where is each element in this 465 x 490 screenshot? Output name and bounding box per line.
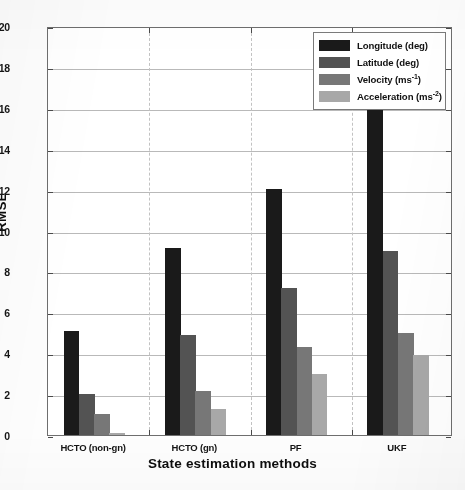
legend-item: Latitude (deg) [319, 54, 441, 71]
y-tick-mark-right [446, 151, 451, 152]
bar [281, 288, 297, 435]
y-tick-label: 12 [0, 185, 10, 197]
y-tick-mark [48, 273, 53, 274]
legend-label: Latitude (deg) [357, 57, 419, 68]
y-tick-mark-right [446, 314, 451, 315]
chart-figure: RMSE 02468101214161820 HCTO (non-gn)HCTO… [0, 0, 465, 490]
y-tick-mark [48, 314, 53, 315]
y-tick-label: 8 [0, 266, 10, 278]
y-tick-mark [48, 233, 53, 234]
legend-label: Velocity (ms-1) [357, 73, 421, 85]
gridline-horizontal [48, 151, 451, 152]
bar [64, 331, 80, 435]
chart-legend: Longitude (deg)Latitude (deg)Velocity (m… [313, 32, 446, 110]
y-tick-mark [48, 28, 53, 29]
gridline-horizontal [48, 192, 451, 193]
legend-label: Acceleration (ms-2) [357, 90, 442, 102]
y-tick-mark-right [446, 233, 451, 234]
y-tick-mark [48, 69, 53, 70]
y-tick-mark-right [446, 396, 451, 397]
x-tick-mark [149, 430, 150, 435]
x-category-label: HCTO (gn) [172, 442, 218, 453]
y-tick-mark [48, 110, 53, 111]
x-category-label: PF [290, 442, 302, 453]
bar [367, 108, 383, 435]
bar [413, 355, 429, 435]
y-tick-mark-right [446, 110, 451, 111]
y-tick-label: 18 [0, 62, 10, 74]
y-tick-mark-right [446, 437, 451, 438]
bar [312, 374, 328, 435]
y-tick-mark [48, 355, 53, 356]
y-tick-label: 6 [0, 307, 10, 319]
legend-label: Longitude (deg) [357, 40, 428, 51]
legend-swatch [319, 74, 350, 85]
y-tick-label: 4 [0, 348, 10, 360]
y-tick-mark [48, 151, 53, 152]
bar [297, 347, 313, 435]
legend-item: Velocity (ms-1) [319, 71, 441, 88]
legend-item: Longitude (deg) [319, 37, 441, 54]
bar [165, 248, 181, 435]
bar [79, 394, 95, 435]
legend-swatch [319, 57, 350, 68]
x-axis-title: State estimation methods [0, 456, 465, 471]
bar [383, 251, 399, 435]
x-category-label: UKF [387, 442, 406, 453]
y-tick-label: 20 [0, 21, 10, 33]
bar [195, 391, 211, 435]
y-tick-label: 16 [0, 103, 10, 115]
y-tick-mark [48, 437, 53, 438]
legend-swatch [319, 40, 350, 51]
y-tick-mark-right [446, 192, 451, 193]
bar [180, 335, 196, 435]
y-tick-label: 0 [0, 430, 10, 442]
gridline-vertical [251, 28, 252, 435]
gridline-vertical [149, 28, 150, 435]
y-tick-mark-right [446, 28, 451, 29]
x-category-label: HCTO (non-gn) [60, 442, 125, 453]
legend-item: Acceleration (ms-2) [319, 88, 441, 105]
y-tick-label: 14 [0, 144, 10, 156]
x-tick-mark-top [149, 28, 150, 33]
bar [211, 409, 227, 435]
y-tick-mark [48, 396, 53, 397]
y-tick-label: 2 [0, 389, 10, 401]
y-tick-mark-right [446, 273, 451, 274]
gridline-horizontal [48, 233, 451, 234]
y-tick-label: 10 [0, 226, 10, 238]
x-tick-mark [352, 430, 353, 435]
y-tick-mark-right [446, 69, 451, 70]
legend-swatch [319, 91, 350, 102]
y-tick-mark-right [446, 355, 451, 356]
bar [109, 433, 125, 435]
bar [94, 414, 110, 435]
x-tick-mark-top [251, 28, 252, 33]
y-tick-mark [48, 192, 53, 193]
x-tick-mark [251, 430, 252, 435]
bar [266, 189, 282, 435]
bar [398, 333, 414, 435]
